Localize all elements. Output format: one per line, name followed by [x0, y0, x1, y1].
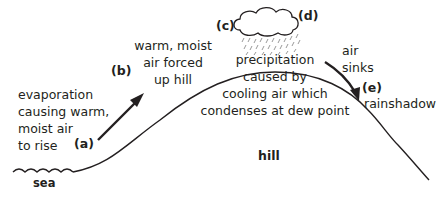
- label-a: (a): [74, 136, 94, 151]
- hill-label: hill: [258, 148, 280, 163]
- label-d: (d): [298, 8, 318, 23]
- evaporation-text-1: evaporation: [18, 87, 93, 102]
- sea-waves: [13, 169, 73, 172]
- sea-label: sea: [33, 176, 55, 191]
- label-b: (b): [111, 63, 131, 78]
- evaporation-text-3: moist air: [18, 121, 73, 136]
- cloud-icon: [234, 8, 298, 36]
- evaporation-text-4: to rise: [18, 138, 57, 153]
- precip-text-1: precipitation: [200, 52, 350, 67]
- forced-text-1: warm, moist: [133, 38, 213, 53]
- label-c: (c): [216, 18, 235, 33]
- sinks-text-1: air: [342, 43, 358, 58]
- sinks-text-2: sinks: [342, 60, 374, 75]
- rainshadow-text: rainshadow: [364, 96, 436, 111]
- precip-text-2: caused by: [200, 69, 350, 84]
- precip-text-4: condenses at dew point: [196, 103, 354, 118]
- label-e: (e): [362, 80, 382, 95]
- evaporation-text-2: causing warm,: [18, 104, 109, 119]
- precip-text-3: cooling air which: [200, 86, 350, 101]
